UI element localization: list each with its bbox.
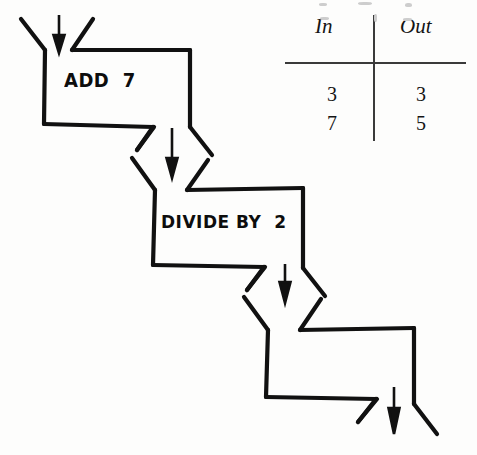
table-rules	[283, 8, 469, 148]
scan-artifact	[358, 2, 372, 5]
arrow-output-3	[389, 387, 400, 434]
scan-artifact	[405, 3, 412, 7]
scan-artifact	[320, 17, 329, 20]
table-cell-out-row-0: 3	[416, 83, 426, 106]
machine-3-funnel-right	[300, 299, 321, 330]
machine-3-outflow-right	[414, 404, 437, 434]
arrow-flow-2-3	[280, 264, 291, 303]
diagram-canvas: ADD 7 DIVIDE BY 2 In Out 3 3 7 5	[0, 0, 477, 455]
machine-1-label: ADD 7	[64, 71, 136, 90]
scan-artifact	[319, 3, 327, 6]
machine-1-chute-right	[137, 127, 154, 150]
arrow-flow-1-2	[167, 128, 178, 178]
machine-2-funnel-right	[187, 160, 208, 190]
machine-2-label: DIVIDE BY 2	[161, 213, 287, 231]
machine-2-top-edge	[187, 188, 303, 190]
machine-3-bottom-edge	[266, 397, 376, 399]
machine-2-funnel-left	[132, 158, 155, 190]
machine-2-chute-right	[247, 267, 265, 290]
machine-3-top-edge	[300, 328, 414, 330]
machine-2-outflow-right	[303, 268, 325, 296]
machine-3-left-wall	[266, 330, 268, 397]
machine-1-bottom-edge	[44, 124, 153, 127]
table-cell-in-row-0: 3	[327, 83, 337, 106]
machine-2-bottom-edge	[153, 265, 264, 267]
scan-artifact	[403, 18, 412, 21]
scan-artifact	[374, 14, 377, 22]
machine-2-left-wall	[153, 190, 155, 265]
machine-3-chute-right	[358, 399, 377, 422]
machine-1-funnel-left	[21, 19, 45, 50]
machine-3-funnel-left	[244, 297, 268, 330]
machine-1-left-wall	[44, 50, 45, 124]
machine-1-outflow-right	[190, 127, 212, 155]
machine-1-funnel-right	[72, 19, 93, 50]
table-cell-out-row-1: 5	[416, 112, 426, 135]
in-out-table: In Out 3 3 7 5	[283, 8, 469, 148]
arrow-input-1	[54, 15, 65, 53]
table-cell-in-row-1: 7	[327, 112, 337, 135]
